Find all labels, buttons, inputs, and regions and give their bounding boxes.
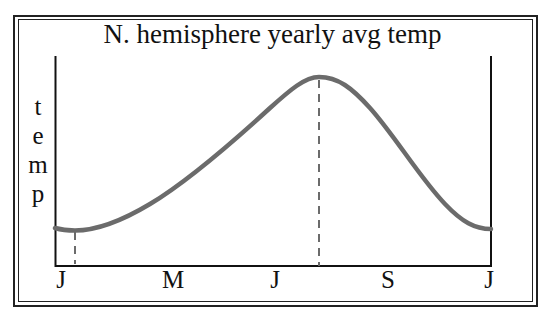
x-tick-sep: S bbox=[381, 266, 395, 294]
x-tick-jun: J bbox=[270, 266, 280, 294]
x-tick-jan-end: J bbox=[484, 266, 494, 294]
x-tick-jan: J bbox=[56, 266, 66, 294]
x-tick-mar: M bbox=[162, 266, 184, 294]
temperature-curve bbox=[55, 77, 491, 231]
